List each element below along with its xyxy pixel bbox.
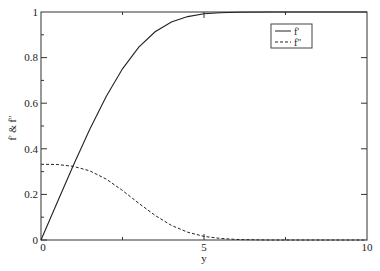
y-tick-label: 0.4 xyxy=(24,143,38,155)
series-f-double-prime-line xyxy=(41,164,367,240)
x-axis-label: y xyxy=(201,252,207,264)
plot-frame xyxy=(41,12,367,240)
y-tick-label: 0.2 xyxy=(24,188,38,200)
y-tick-label: 0.6 xyxy=(24,97,38,109)
legend-label: f' xyxy=(294,26,299,37)
legend: f' f'' xyxy=(271,24,312,48)
legend-box xyxy=(271,24,312,48)
y-tick-label: 1 xyxy=(33,6,39,18)
legend-label: f'' xyxy=(294,37,301,48)
y-tick-label: 0 xyxy=(33,234,39,246)
y-tick-label: 0.8 xyxy=(24,51,38,63)
chart: 0 0.2 0.4 0.6 0.8 1 0 5 10 y f' & f'' f'… xyxy=(0,0,380,271)
series-f-prime-line xyxy=(41,12,367,240)
x-tick-label: 10 xyxy=(362,241,374,253)
y-ticks xyxy=(41,35,367,240)
x-tick-label: 0 xyxy=(40,241,46,253)
x-ticks xyxy=(123,12,286,240)
y-axis-label: f' & f'' xyxy=(7,115,18,140)
